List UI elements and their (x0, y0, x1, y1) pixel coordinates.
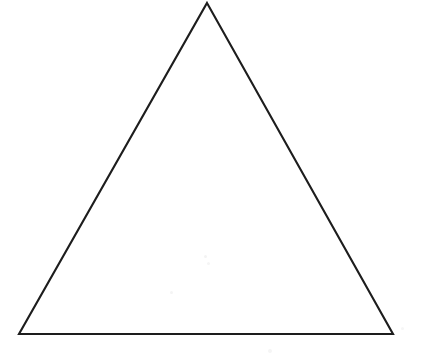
figure-canvas (0, 0, 422, 359)
triangle-shape (19, 3, 393, 334)
triangle-drawing-svg (0, 0, 422, 359)
